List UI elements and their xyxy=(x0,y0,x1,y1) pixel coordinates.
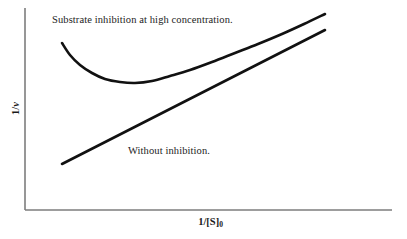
y-axis-title-variable: v xyxy=(10,102,21,107)
kinetics-figure: Substrate inhibition at high concentrati… xyxy=(0,0,407,239)
line-without-inhibition xyxy=(62,30,325,164)
x-axis-title-text: 1/[S] xyxy=(198,216,219,227)
x-axis-title: 1/[S]0 xyxy=(0,216,407,229)
x-axis-title-subscript: 0 xyxy=(219,220,223,229)
plot-canvas xyxy=(0,0,407,239)
annotation-substrate-inhibition: Substrate inhibition at high concentrati… xyxy=(52,14,233,26)
y-axis-title-text: 1/ xyxy=(10,107,21,115)
y-axis-title: 1/v xyxy=(10,89,21,129)
annotation-without-inhibition: Without inhibition. xyxy=(128,145,210,157)
